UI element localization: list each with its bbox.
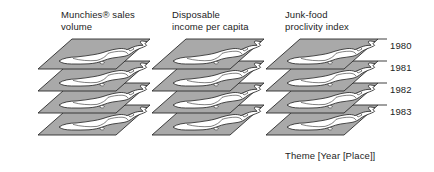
year-label-1983: 1983 xyxy=(390,106,412,117)
stack-munchies-sales-volume xyxy=(38,39,150,135)
stack-disposable-income-per-capita xyxy=(152,39,264,135)
stack-junk-food-proclivity-index xyxy=(266,39,378,135)
year-label-1982: 1982 xyxy=(390,84,412,95)
column-title-munchies-sales-volume: Munchies® sales volume xyxy=(61,9,171,33)
year-label-1980: 1980 xyxy=(390,40,412,51)
year-label-1981: 1981 xyxy=(390,62,412,73)
year-leader-lines xyxy=(378,39,387,105)
column-title-disposable-income: Disposable income per capita xyxy=(172,9,282,33)
layered-map-figure: Munchies® sales volume Disposable income… xyxy=(0,0,434,172)
figure-caption: Theme [Year [Place]] xyxy=(285,150,375,162)
column-title-junk-food-proclivity: Junk-food proclivity index xyxy=(285,9,395,33)
